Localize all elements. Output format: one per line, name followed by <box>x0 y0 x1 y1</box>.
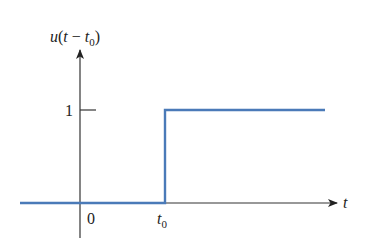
y-tick-label: 1 <box>65 102 73 119</box>
step-function-diagram: u(t − t0) 1 0 t0 t <box>0 0 367 247</box>
step-signal-line <box>20 110 325 203</box>
origin-label: 0 <box>87 210 95 227</box>
t0-label: t0 <box>157 210 167 230</box>
x-axis-label: t <box>343 194 348 211</box>
y-axis-label: u(t − t0) <box>50 28 100 48</box>
